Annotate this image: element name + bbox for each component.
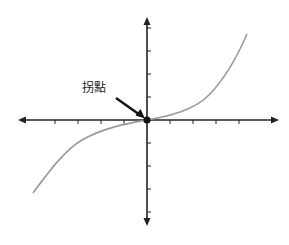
inflection-point-diagram xyxy=(0,0,289,245)
pointer-arrowhead xyxy=(136,109,146,119)
pointer-arrow xyxy=(116,98,140,115)
inflection-point-label: 拐點 xyxy=(82,81,106,95)
inflection-point-marker xyxy=(143,116,150,123)
